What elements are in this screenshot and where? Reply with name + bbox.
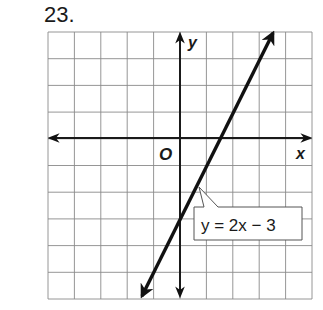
graph-line	[142, 33, 273, 296]
x-axis-label: x	[295, 145, 306, 162]
origin-label: O	[159, 145, 172, 164]
y-axis-label: y	[187, 34, 198, 51]
equation-label: y = 2x − 3	[201, 216, 276, 235]
coordinate-plane: y x O y = 2x − 3	[0, 0, 323, 310]
